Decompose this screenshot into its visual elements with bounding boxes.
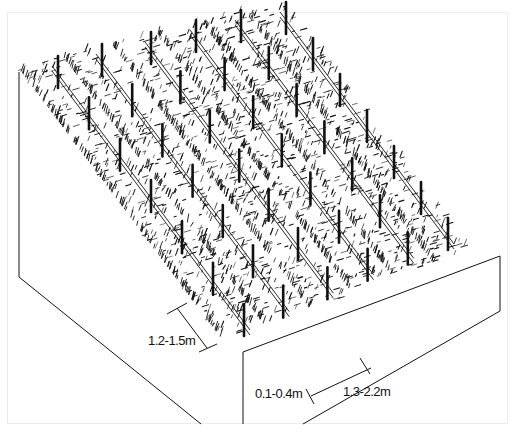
grass-stroke (188, 53, 190, 59)
grass-stroke (171, 64, 174, 71)
grass-stroke (139, 204, 142, 210)
grass-stroke (264, 43, 270, 45)
grass-stroke (261, 268, 263, 274)
grass-stroke (201, 257, 205, 258)
grass-edge-stroke (177, 204, 178, 208)
dim-tick-spacing-left (306, 389, 314, 404)
grass-stroke (164, 207, 166, 213)
grass-stroke (330, 115, 336, 117)
block-bottom-left-edge (19, 277, 201, 424)
grass-stroke (139, 39, 144, 41)
grass-stroke (373, 165, 375, 169)
grass-stroke (179, 260, 180, 263)
grass-stroke (431, 248, 434, 249)
grass-stroke (301, 168, 306, 170)
grass-stroke (294, 303, 301, 305)
grass-stroke (214, 144, 215, 148)
grass-edge-stroke (236, 60, 239, 67)
grass-stroke (139, 128, 141, 133)
grass-stroke (227, 36, 235, 38)
grass-stroke (232, 171, 237, 173)
grass-stroke (270, 228, 273, 235)
grass-stroke (231, 315, 233, 319)
grass-stroke (275, 287, 279, 288)
grass-stroke (437, 215, 438, 218)
grass-stroke (296, 265, 300, 266)
grass-stroke (333, 288, 340, 290)
grass-stroke (220, 99, 222, 105)
grass-stroke (322, 191, 327, 193)
grass-edge-stroke (106, 106, 108, 114)
grass-stroke (256, 213, 259, 220)
grass-stroke (326, 230, 329, 231)
grass-stroke (236, 122, 241, 123)
grass-edge-stroke (83, 77, 84, 84)
grass-stroke (344, 127, 350, 129)
grass-stroke (222, 34, 224, 38)
grass-stroke (129, 196, 132, 202)
grass-stroke (199, 105, 202, 106)
grass-stroke (364, 214, 366, 219)
grass-stroke (352, 103, 357, 105)
grass-stroke (350, 277, 353, 278)
grass-stroke (273, 92, 275, 96)
grass-stroke (341, 289, 343, 294)
grass-stroke (83, 51, 86, 52)
grass-stroke (332, 143, 334, 148)
grass-stroke (221, 49, 225, 50)
grass-stroke (187, 29, 189, 34)
grass-stroke (381, 174, 384, 175)
grass-stroke (236, 113, 239, 120)
grass-edge-stroke (371, 242, 373, 248)
grass-stroke (247, 20, 254, 22)
grass-stroke (285, 186, 289, 187)
grass-stroke (236, 198, 242, 200)
grass-edge-stroke (212, 323, 214, 327)
grass-stroke (205, 132, 206, 135)
grass-edge-stroke (174, 266, 175, 274)
grass-stroke (143, 129, 144, 132)
grass-stroke (254, 16, 260, 18)
grass-stroke (220, 17, 226, 19)
grass-stroke (230, 298, 235, 299)
grass-stroke (240, 303, 243, 310)
grass-edge-stroke (289, 201, 292, 209)
grass-stroke (391, 203, 394, 204)
grass-stroke (339, 184, 346, 186)
grass-stroke (202, 305, 209, 307)
grass-stroke (403, 163, 405, 167)
grass-stroke (164, 125, 167, 132)
grass-stroke (275, 92, 277, 97)
grass-stroke (141, 217, 146, 219)
grass-stroke (275, 203, 279, 204)
grass-stroke (293, 49, 296, 56)
grass-stroke (421, 236, 422, 239)
grass-stroke (246, 211, 247, 214)
label-furrow-width: 0.1-0.4m (255, 386, 302, 401)
grass-stroke (253, 42, 257, 43)
grass-stroke (335, 66, 337, 72)
terrace-block-outline (19, 72, 500, 424)
grass-stroke (427, 237, 429, 242)
grass-stroke (350, 123, 354, 124)
grass-stroke (146, 224, 152, 226)
grass-edge-stroke (113, 42, 114, 47)
grass-stroke (394, 219, 399, 221)
grass-stroke (219, 233, 221, 237)
grass-stroke (311, 228, 312, 231)
grass-stroke (202, 97, 205, 104)
grass-edge-stroke (388, 265, 390, 271)
grass-stroke (275, 99, 280, 101)
grass-stroke (342, 131, 350, 133)
grass-stroke (317, 47, 321, 48)
grass-stroke (305, 130, 306, 133)
grass-stroke (104, 94, 110, 96)
grass-stroke (160, 84, 162, 89)
grass-stroke (321, 46, 324, 53)
grass-stroke (210, 176, 211, 179)
grass-edge-stroke (125, 206, 127, 210)
grass-stroke (265, 81, 271, 83)
grass-stroke (239, 195, 245, 197)
grass-stroke (306, 249, 308, 253)
grass-stroke (386, 213, 389, 220)
